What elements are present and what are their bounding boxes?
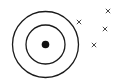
- background: [0, 0, 116, 82]
- diagram-canvas: [0, 0, 116, 82]
- center-dot: [42, 41, 50, 49]
